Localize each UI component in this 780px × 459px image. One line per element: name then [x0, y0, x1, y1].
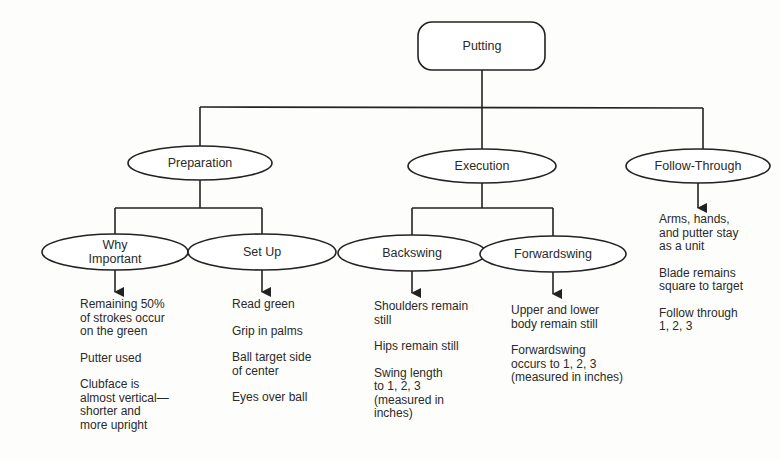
note: Putter used — [80, 352, 169, 366]
set-up-notes: Read green Grip in palms Ball target sid… — [232, 298, 311, 418]
note: Blade remains square to target — [659, 267, 743, 294]
note: Grip in palms — [232, 325, 311, 339]
execution-label: Execution — [455, 159, 510, 174]
note: Clubface is almost vertical— shorter and… — [80, 378, 169, 432]
note: Remaining 50% of strokes occur on the gr… — [80, 298, 169, 339]
preparation-label: Preparation — [168, 156, 233, 171]
forwardswing-label: Forwardswing — [514, 247, 592, 262]
root-label: Putting — [463, 39, 502, 54]
follow-through-label: Follow-Through — [655, 159, 742, 174]
note: Eyes over ball — [232, 391, 311, 405]
forwardswing-notes: Upper and lower body remain still Forwar… — [511, 304, 623, 398]
why-important-notes: Remaining 50% of strokes occur on the gr… — [80, 298, 169, 445]
set-up-label: Set Up — [243, 245, 281, 260]
note: Arms, hands, and putter stay as a unit — [659, 213, 743, 254]
backswing-notes: Shoulders remain still Hips remain still… — [374, 300, 468, 434]
note: Ball target side of center — [232, 351, 311, 378]
follow-through-notes: Arms, hands, and putter stay as a unit B… — [659, 213, 743, 347]
note: Shoulders remain still — [374, 300, 468, 327]
note: Swing length to 1, 2, 3 (measured in inc… — [374, 367, 468, 421]
why-important-label: Why Important — [89, 238, 142, 266]
note: Read green — [232, 298, 311, 312]
note: Upper and lower body remain still — [511, 304, 623, 331]
note: Forwardswing occurs to 1, 2, 3 (measured… — [511, 344, 623, 385]
backswing-label: Backswing — [382, 246, 442, 261]
note: Follow through 1, 2, 3 — [659, 307, 743, 334]
note: Hips remain still — [374, 340, 468, 354]
